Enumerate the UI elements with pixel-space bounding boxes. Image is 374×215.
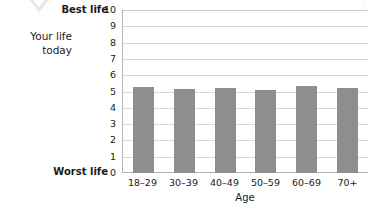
x-axis-ticks: 18–2930–3940–4950–5960–6970+	[122, 177, 368, 191]
bar	[174, 89, 195, 173]
y-axis-tick-label: 6	[94, 69, 116, 80]
bar	[133, 87, 154, 173]
y-axis-tick-label: 10	[94, 4, 116, 15]
bar	[296, 86, 317, 173]
x-axis-tick-label: 70+	[327, 177, 368, 191]
x-axis-tick-label: 30–39	[163, 177, 204, 191]
plot-area	[122, 10, 368, 173]
y-axis-tick-label: 5	[94, 86, 116, 97]
bar-slot	[123, 10, 164, 173]
y-axis-tick-label: 8	[94, 37, 116, 48]
side-annotation: Your life today	[0, 30, 72, 57]
x-axis-tick-label: 40–49	[204, 177, 245, 191]
x-axis-title: Age	[122, 192, 368, 203]
x-axis-tick-label: 50–59	[245, 177, 286, 191]
bar-slot	[164, 10, 205, 173]
y-axis-tick-label: 0	[94, 167, 116, 178]
bar-slot	[327, 10, 368, 173]
bar-slot	[205, 10, 246, 173]
y-axis-tick-label: 1	[94, 151, 116, 162]
y-axis-tick-label: 7	[94, 53, 116, 64]
side-annotation-line1: Your life	[30, 30, 72, 42]
x-axis-tick-label: 60–69	[286, 177, 327, 191]
bar	[255, 90, 276, 173]
bar-series	[123, 10, 368, 173]
chart-container: Your life today Best life Worst life 109…	[0, 0, 374, 215]
bar-slot	[286, 10, 327, 173]
x-axis-tick-label: 18–29	[122, 177, 163, 191]
y-axis-tick-label: 3	[94, 118, 116, 129]
side-annotation-line2: today	[0, 44, 72, 58]
y-axis-tick-label: 9	[94, 20, 116, 31]
bar-slot	[245, 10, 286, 173]
bar	[215, 88, 236, 173]
y-axis-tick-label: 2	[94, 134, 116, 145]
bar	[337, 88, 358, 173]
y-axis-tick-label: 4	[94, 102, 116, 113]
